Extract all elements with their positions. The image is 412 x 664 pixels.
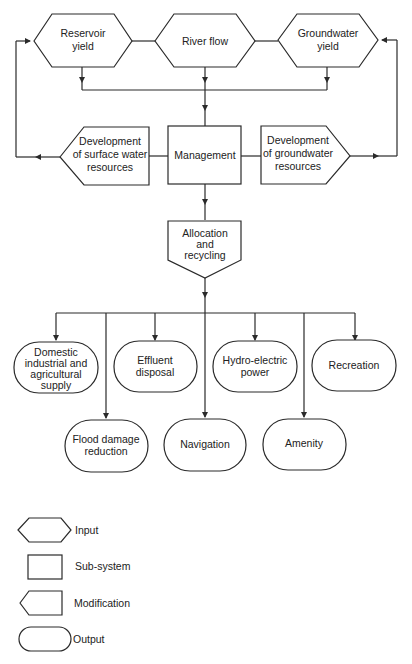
- legend-label-subsystem: Sub-system: [75, 560, 131, 572]
- legend: Input Sub-system Modification Output: [18, 518, 131, 651]
- modification-allocation-recycling: Allocation and recycling: [168, 221, 241, 278]
- output-recreation: Recreation: [312, 340, 396, 391]
- label: Recreation: [329, 359, 380, 371]
- output-domestic-supply: Domestic industrial and agricultural sup…: [14, 342, 98, 393]
- label: of groundwater: [263, 147, 334, 159]
- label: of surface water: [73, 148, 148, 160]
- legend-modification: Modification: [20, 591, 130, 615]
- label: Navigation: [180, 438, 230, 450]
- legend-subsystem: Sub-system: [28, 555, 131, 579]
- label: River flow: [182, 35, 229, 47]
- label: power: [241, 366, 270, 378]
- modification-surface-water-development: Development of surface water resources: [60, 127, 149, 185]
- legend-output: Output: [19, 627, 105, 651]
- legend-input: Input: [18, 518, 98, 542]
- label: Hydro-electric: [223, 354, 288, 366]
- legend-label-modification: Modification: [74, 597, 130, 609]
- label: Flood damage: [72, 433, 139, 445]
- label: disposal: [136, 366, 175, 378]
- label: supply: [41, 379, 72, 391]
- label: Amenity: [285, 437, 324, 449]
- label: Reservoir: [61, 27, 106, 39]
- legend-label-input: Input: [75, 524, 98, 536]
- output-amenity: Amenity: [263, 419, 346, 470]
- label: resources: [275, 160, 321, 172]
- label: Management: [174, 149, 235, 161]
- output-effluent-disposal: Effluent disposal: [114, 341, 197, 392]
- label: yield: [317, 40, 339, 52]
- label: reduction: [84, 445, 127, 457]
- label: recycling: [184, 249, 226, 261]
- input-reservoir-yield: Reservoir yield: [34, 14, 132, 67]
- input-river-flow: River flow: [155, 14, 255, 67]
- modification-groundwater-development: Development of groundwater resources: [261, 126, 350, 184]
- output-navigation: Navigation: [164, 419, 246, 471]
- legend-label-output: Output: [73, 633, 105, 645]
- output-hydro-electric-power: Hydro-electric power: [213, 341, 297, 392]
- label: Effluent: [137, 354, 172, 366]
- water-resource-system-diagram: Reservoir yield River flow Groundwater y…: [0, 0, 412, 664]
- label: Development: [267, 134, 329, 146]
- label: Development: [79, 135, 141, 147]
- subsystem-management: Management: [168, 126, 241, 184]
- input-groundwater-yield: Groundwater yield: [278, 14, 378, 67]
- label: resources: [87, 161, 133, 173]
- label: Groundwater: [298, 27, 359, 39]
- output-flood-damage-reduction: Flood damage reduction: [65, 420, 148, 472]
- label: yield: [72, 40, 94, 52]
